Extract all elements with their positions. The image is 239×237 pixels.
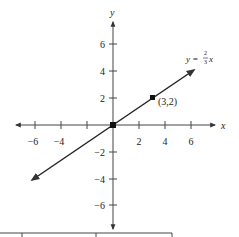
y-tick-label: 2 (100, 93, 105, 104)
point-label: (3,2) (158, 96, 177, 108)
x-tick-label: 2 (137, 136, 142, 147)
y-tick-label: −6 (94, 200, 105, 211)
graph-figure: −6 −4 2 4 6 6 4 2 −2 −4 −6 x y (3,2) y =… (0, 0, 239, 237)
point-3-2 (150, 95, 155, 100)
x-tick-label: 4 (163, 136, 168, 147)
x-axis-label: x (220, 120, 226, 131)
equation-variable: x (208, 54, 213, 64)
x-tick-label: −4 (54, 136, 65, 147)
y-tick-label: 4 (100, 66, 105, 77)
y-tick-label: 6 (100, 39, 105, 50)
x-tick-label: −6 (28, 136, 39, 147)
equation-label: y = 2 3 x (185, 50, 213, 65)
y-tick-label: −4 (94, 174, 105, 185)
equation-lhs: y = (185, 54, 198, 64)
table-border-fragment (0, 233, 172, 237)
y-axis-label: y (109, 7, 115, 18)
equation-denominator: 3 (204, 59, 207, 65)
y-tick-label: −2 (94, 147, 105, 158)
origin-point (110, 122, 116, 128)
equation-numerator: 2 (204, 50, 207, 56)
x-tick-label: 6 (189, 136, 194, 147)
